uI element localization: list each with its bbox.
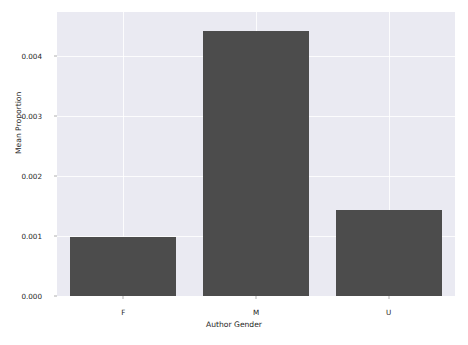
y-tick-mark [54, 296, 57, 297]
y-axis-label: Mean Proportion [14, 92, 23, 154]
y-tick-mark [54, 235, 57, 236]
y-tick-label: 0.003 [21, 111, 42, 120]
y-tick-label: 0.000 [21, 292, 42, 301]
bar-chart-figure: 0.0000.0010.0020.0030.004 FMU Author Gen… [0, 0, 468, 345]
bar-M [203, 31, 309, 296]
y-tick-mark [54, 55, 57, 56]
plot-area [57, 12, 455, 296]
x-tick-mark [256, 296, 257, 299]
y-tick-mark [54, 115, 57, 116]
y-tick-mark [54, 175, 57, 176]
x-tick-label: M [253, 308, 259, 317]
y-tick-label: 0.004 [21, 51, 42, 60]
bar-U [336, 210, 442, 296]
x-tick-mark [388, 296, 389, 299]
y-axis-ticks: 0.0000.0010.0020.0030.004 [0, 0, 52, 345]
y-tick-label: 0.001 [21, 231, 42, 240]
x-axis-label: Author Gender [0, 320, 468, 329]
x-tick-label: U [386, 308, 391, 317]
bar-F [70, 237, 176, 296]
y-tick-label: 0.002 [21, 171, 42, 180]
x-tick-label: F [121, 308, 125, 317]
x-tick-mark [123, 296, 124, 299]
